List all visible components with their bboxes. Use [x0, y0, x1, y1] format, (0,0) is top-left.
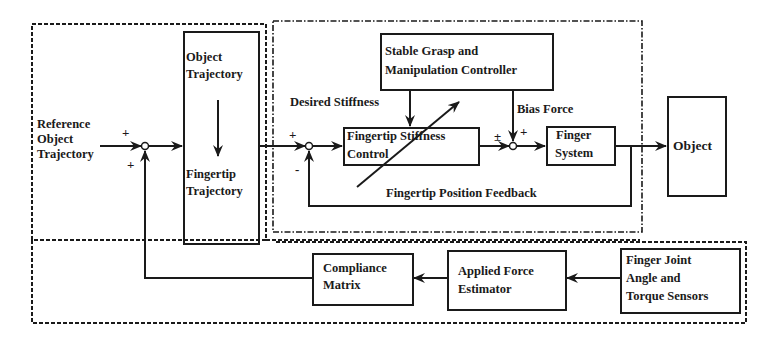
stable-grasp-line2: Manipulation Controller	[385, 63, 517, 78]
fingertip-trajectory-line2: Trajectory	[186, 184, 243, 199]
stable-grasp-controller-block	[380, 33, 554, 91]
stiffness-control-line1: Fingertip Stiffness	[347, 129, 445, 144]
stable-grasp-line1: Stable Grasp and	[385, 44, 478, 59]
summing-junction-2	[306, 143, 313, 150]
applied-force-estimator-block	[447, 250, 567, 311]
finger-system-line2: System	[555, 146, 593, 161]
reference-label-line2: Object	[37, 132, 73, 147]
object-trajectory-line2: Trajectory	[186, 67, 243, 82]
object-label: Object	[673, 138, 712, 153]
junction2-sign-bottom: -	[295, 163, 299, 176]
position-feedback-label: Fingertip Position Feedback	[386, 186, 537, 201]
junction3-sign-left: ±	[494, 130, 501, 143]
bias-force-label: Bias Force	[517, 102, 573, 117]
junction1-sign-top: +	[122, 126, 129, 139]
sensors-line3: Torque Sensors	[626, 289, 708, 304]
fingertip-trajectory-line1: Fingertip	[186, 167, 236, 182]
desired-stiffness-label: Desired Stiffness	[290, 95, 379, 110]
sensors-line1: Finger Joint	[626, 253, 691, 268]
junction2-sign-top: +	[289, 128, 296, 141]
summing-junction-3	[510, 143, 517, 150]
compliance-line1: Compliance	[323, 261, 387, 276]
finger-system-line1: Finger	[556, 128, 591, 143]
junction1-sign-bottom: +	[127, 158, 134, 171]
compliance-line2: Matrix	[323, 278, 360, 293]
reference-label-line3: Trajectory	[37, 147, 94, 162]
sensors-line2: Angle and	[626, 271, 681, 286]
force-estimator-line2: Estimator	[458, 282, 511, 297]
junction3-sign-right: +	[520, 125, 527, 138]
force-estimator-line1: Applied Force	[458, 264, 534, 279]
summing-junction-1	[142, 143, 149, 150]
object-trajectory-line1: Object	[186, 50, 222, 65]
reference-label-line1: Reference	[37, 117, 90, 132]
stiffness-control-line2: Control	[347, 147, 388, 162]
